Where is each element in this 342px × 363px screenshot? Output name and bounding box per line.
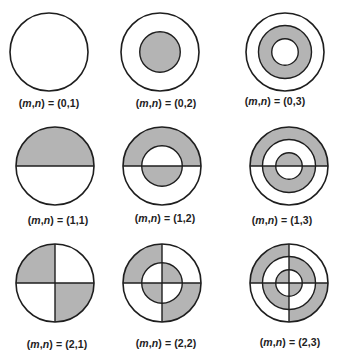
mode-label-2-3: (m,n) = (2,3) [260,336,321,348]
mode-0-2 [121,13,199,91]
mode-label-0-2: (m,n) = (0,2) [136,97,197,109]
mode-label-1-1: (m,n) = (1,1) [28,214,89,226]
mode-2-2 [123,244,201,322]
mode-2-1 [16,244,94,322]
mode-2-3 [250,244,328,322]
mode-0-3 [246,13,324,91]
mode-label-1-3: (m,n) = (1,3) [252,214,313,226]
mode-label-2-1: (m,n) = (2,1) [27,338,88,350]
mode-label-2-2: (m,n) = (2,2) [136,337,197,349]
mode-0-1 [10,13,88,91]
mode-label-0-3: (m,n) = (0,3) [245,95,306,107]
mode-label-1-2: (m,n) = (1,2) [135,212,196,224]
membrane-modes-diagram [0,0,342,363]
mode-label-0-1: (m,n) = (0,1) [19,97,80,109]
mode-1-3 [250,127,328,205]
mode-1-2 [123,127,201,205]
mode-1-1 [16,127,94,205]
